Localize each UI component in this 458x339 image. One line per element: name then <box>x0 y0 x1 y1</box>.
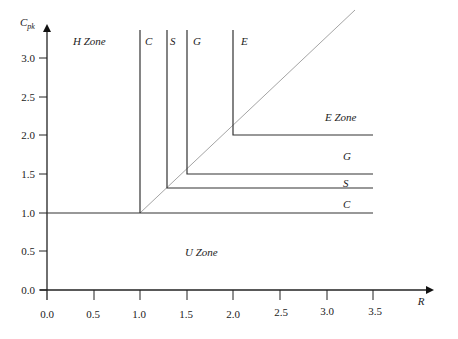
y-tick-label: 3.0 <box>21 52 35 64</box>
x-tick-label: 1.0 <box>132 308 146 320</box>
y-axis-title: Cpk <box>20 16 35 31</box>
x-tick-label: 2.0 <box>226 308 240 320</box>
right-label-s: S <box>343 177 349 189</box>
zone-diagram: 0.0 0.5 1.0 1.5 2.0 2.5 3.0 0.0 0.5 1.0 … <box>0 0 458 339</box>
y-tick-label: 2.0 <box>21 129 35 141</box>
y-ticks <box>39 58 47 290</box>
y-tick-label: 0.5 <box>21 245 35 257</box>
boundary-s <box>167 30 373 188</box>
x-tick-label: 3.5 <box>368 305 382 317</box>
top-label-g: G <box>193 35 201 47</box>
x-tick-label: 0.5 <box>86 308 100 320</box>
x-tick-label: 1.5 <box>179 308 193 320</box>
y-tick-label: 1.5 <box>21 168 35 180</box>
top-label-e: E <box>240 35 248 47</box>
x-axis-title: R <box>417 295 425 307</box>
h-zone-label: H Zone <box>72 35 106 47</box>
y-tick-label: 1.0 <box>21 207 35 219</box>
top-label-s: S <box>170 35 176 47</box>
x-tick-label: 3.0 <box>320 305 334 317</box>
y-tick-label: 0.0 <box>21 284 35 296</box>
x-tick-label: 2.5 <box>274 306 288 318</box>
y-tick-label: 2.5 <box>21 91 35 103</box>
right-label-c: C <box>343 198 351 210</box>
top-label-c: C <box>145 35 153 47</box>
u-zone-label: U Zone <box>185 246 218 258</box>
y-axis-title-sub: pk <box>26 22 35 31</box>
e-zone-label: E Zone <box>324 111 357 123</box>
right-label-g: G <box>343 150 351 162</box>
x-tick-label: 0.0 <box>40 308 54 320</box>
x-ticks <box>94 290 373 300</box>
